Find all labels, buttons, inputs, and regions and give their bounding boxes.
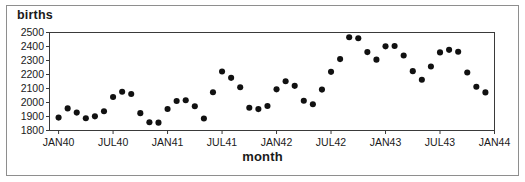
data-point (264, 103, 270, 109)
data-point (56, 115, 62, 121)
y-axis-ticks: 18001900200021002200230024002500 (21, 26, 50, 136)
data-point (419, 77, 425, 83)
x-tick-label: JAN41 (152, 136, 184, 148)
data-point (428, 63, 434, 69)
data-point (210, 89, 216, 95)
data-point (101, 108, 107, 114)
x-axis-label: month (0, 149, 525, 164)
data-point (301, 98, 307, 104)
data-point (165, 106, 171, 112)
data-point (219, 69, 225, 75)
data-point (382, 43, 388, 49)
y-tick-label: 2400 (21, 40, 45, 52)
data-point (410, 68, 416, 74)
data-point (174, 98, 180, 104)
data-points (56, 34, 489, 126)
data-point (155, 120, 161, 126)
y-tick-label: 2100 (21, 82, 45, 94)
data-point (228, 75, 234, 81)
data-point (83, 115, 89, 121)
data-point (273, 86, 279, 92)
data-point (355, 35, 361, 41)
data-point (364, 49, 370, 55)
y-tick-label: 2000 (21, 96, 45, 108)
data-point (74, 110, 80, 116)
x-tick-label: JAN44 (479, 136, 511, 148)
plot-frame (50, 33, 495, 131)
x-axis-ticks: JAN40JUL40JAN41JUL41JAN42JUL42JAN43JUL43… (43, 131, 511, 148)
data-point (437, 49, 443, 55)
x-tick-label: JAN42 (261, 136, 293, 148)
y-tick-label: 1900 (21, 110, 45, 122)
y-tick-label: 2500 (21, 26, 45, 38)
x-tick-label: JUL43 (425, 136, 456, 148)
figure-container: births 18001900200021002200230024002500 … (0, 0, 525, 182)
x-tick-label: JAN43 (370, 136, 402, 148)
data-point (473, 84, 479, 90)
x-tick-label: JUL41 (207, 136, 238, 148)
data-point (337, 56, 343, 62)
data-point (201, 115, 207, 121)
data-point (319, 87, 325, 93)
y-tick-label: 2300 (21, 54, 45, 66)
data-point (283, 78, 289, 84)
data-point (137, 110, 143, 116)
data-point (346, 34, 352, 40)
data-point (455, 49, 461, 55)
x-tick-label: JAN40 (43, 136, 75, 148)
data-point (110, 94, 116, 100)
data-point (192, 103, 198, 109)
data-point (183, 97, 189, 103)
data-point (464, 69, 470, 75)
data-point (146, 119, 152, 125)
data-point (446, 47, 452, 53)
y-tick-label: 1800 (21, 124, 45, 136)
x-tick-label: JUL42 (316, 136, 347, 148)
data-point (373, 57, 379, 63)
data-point (310, 101, 316, 107)
data-point (237, 84, 243, 90)
data-point (482, 89, 488, 95)
data-point (246, 105, 252, 111)
data-point (119, 89, 125, 95)
data-point (65, 105, 71, 111)
x-tick-label: JUL40 (98, 136, 129, 148)
axes (50, 33, 495, 131)
data-point (328, 69, 334, 75)
data-point (401, 52, 407, 58)
data-point (128, 91, 134, 97)
y-tick-label: 2200 (21, 68, 45, 80)
data-point (92, 113, 98, 119)
data-point (292, 83, 298, 89)
data-point (392, 43, 398, 49)
data-point (255, 106, 261, 112)
